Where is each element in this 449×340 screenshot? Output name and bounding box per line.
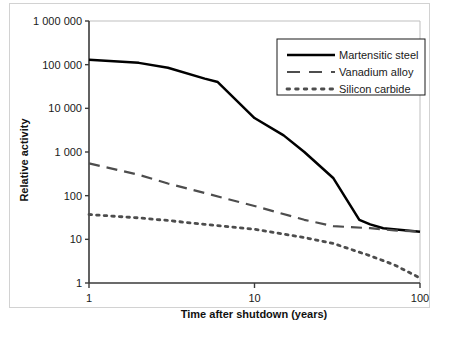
- relative-activity-line-chart: 1101001 00010 000100 0001 000 000 110100…: [0, 0, 449, 340]
- y-tick-label: 100: [64, 190, 82, 202]
- y-tick-label: 100 000: [42, 59, 82, 71]
- x-axis-title: Time after shutdown (years): [181, 308, 328, 320]
- y-tick-label: 1 000 000: [33, 15, 82, 27]
- y-tick-label: 10 000: [48, 102, 82, 114]
- legend-label: Martensitic steel: [339, 49, 418, 61]
- legend-label: Vanadium alloy: [339, 66, 414, 78]
- y-axis-ticks: 1101001 00010 000100 0001 000 000: [33, 15, 89, 289]
- chart-figure: 1101001 00010 000100 0001 000 000 110100…: [0, 0, 449, 340]
- chart-legend: Martensitic steelVanadium alloySilicon c…: [277, 39, 425, 95]
- y-axis-title: Relative activity: [18, 118, 30, 202]
- y-tick-label: 1: [76, 277, 82, 289]
- y-tick-label: 1 000: [54, 146, 82, 158]
- x-axis-ticks: 110100: [86, 283, 429, 304]
- y-tick-label: 10: [70, 233, 82, 245]
- series-line-vanadium-alloy: [89, 163, 420, 231]
- x-tick-label: 1: [86, 292, 92, 304]
- x-tick-label: 10: [248, 292, 260, 304]
- legend-label: Silicon carbide: [339, 83, 411, 95]
- x-tick-label: 100: [411, 292, 429, 304]
